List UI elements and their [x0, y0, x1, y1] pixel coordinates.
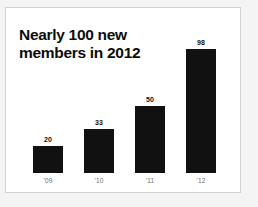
bar-group-0[interactable]: 20 '09 — [33, 146, 63, 173]
bar-group-1[interactable]: 33 '10 — [84, 129, 114, 173]
bar-category-0: '09 — [27, 177, 69, 184]
bar-group-2[interactable]: 50 '11 — [135, 106, 165, 173]
bar-value-1: 33 — [84, 119, 114, 126]
bar-category-2: '11 — [129, 177, 171, 184]
bar-0[interactable] — [33, 146, 63, 173]
plot-area: 20 '09 33 '10 50 '11 98 — [6, 8, 242, 194]
bar-2[interactable] — [135, 106, 165, 173]
bar-value-2: 50 — [135, 96, 165, 103]
bar-category-1: '10 — [78, 177, 120, 184]
bar-3[interactable] — [186, 49, 216, 173]
bar-1[interactable] — [84, 129, 114, 173]
bar-value-3: 98 — [186, 39, 216, 46]
bar-category-3: '12 — [180, 177, 222, 184]
chart-card: Nearly 100 new members in 2012 20 '09 33… — [5, 7, 241, 193]
bar-chart-figure: Nearly 100 new members in 2012 20 '09 33… — [6, 8, 240, 192]
bar-group-3[interactable]: 98 '12 — [186, 49, 216, 173]
screenshot-root: Nearly 100 new members in 2012 20 '09 33… — [0, 0, 258, 207]
bar-value-0: 20 — [33, 136, 63, 143]
